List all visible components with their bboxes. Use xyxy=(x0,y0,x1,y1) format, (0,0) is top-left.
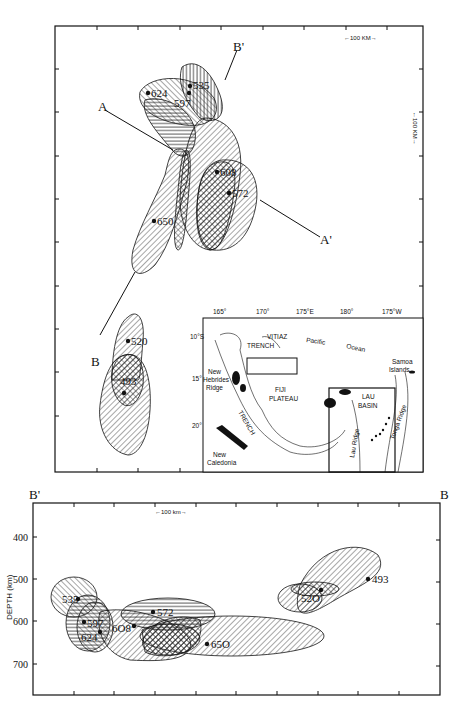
event-dot-608 xyxy=(215,170,219,174)
event-dot-597 xyxy=(187,91,191,95)
section-label-b-prime: B' xyxy=(29,487,40,502)
inset-lon-165: 165° xyxy=(213,308,227,315)
profile-line-b-prime xyxy=(225,50,237,80)
map-scale-horizontal: ←100 KM→ xyxy=(344,35,377,41)
label-ridge: Ridge xyxy=(206,384,223,392)
figure: ←100 KM→ ←100 KM→ A A' B' B 535 624 5 xyxy=(0,0,462,715)
island-hebrides-2 xyxy=(240,384,246,392)
event-label-624: 624 xyxy=(151,87,168,99)
label-islands: Islands xyxy=(389,366,410,373)
event-label-535: 535 xyxy=(193,79,210,91)
section-panel: B' B 400 500 600 700 DEPTH (km) ←100 km→ xyxy=(5,487,449,695)
label-a: A xyxy=(98,99,108,114)
label-samoa: Samoa xyxy=(392,358,413,365)
inset-lon-180: 180° xyxy=(340,308,354,315)
event-dot-624 xyxy=(146,91,150,95)
profile-line-a-prime xyxy=(260,200,320,237)
event-label-572: 572 xyxy=(232,187,249,199)
y-tick-400: 400 xyxy=(13,532,28,543)
label-lau: LAU xyxy=(362,393,375,400)
event-dot-650 xyxy=(152,219,156,223)
section-dot-624 xyxy=(98,630,102,634)
section-label-624: 624 xyxy=(81,631,98,643)
label-new-2: New xyxy=(213,451,226,458)
inset-lat-20: 20° xyxy=(192,422,202,429)
island-hebrides xyxy=(232,371,240,385)
event-label-597: 597 xyxy=(174,97,191,109)
label-basin: BASIN xyxy=(358,402,378,409)
section-label-535: 535 xyxy=(62,593,79,605)
label-b-prime: B' xyxy=(233,39,244,54)
label-vitiaz-trench: TRENCH xyxy=(247,342,274,349)
inset-map: 165° 170° 175°E 180° 175°W 10°S 15° 20° xyxy=(190,308,423,472)
inset-lon-175e: 175°E xyxy=(296,308,314,315)
event-label-493: 493 xyxy=(120,375,137,387)
inset-lon-170: 170° xyxy=(256,308,270,315)
section-label-b: B xyxy=(440,487,449,502)
section-label-493: 493 xyxy=(372,573,389,585)
y-axis-label: DEPTH (km) xyxy=(5,574,14,620)
map-scale-vertical: ←100 KM→ xyxy=(412,112,418,145)
inset-lat-10s: 10°S xyxy=(190,333,205,340)
label-caledonia: Caledonia xyxy=(207,459,237,466)
section-label-597: 597 xyxy=(87,617,104,629)
event-dot-535 xyxy=(188,84,192,88)
section-label-520: 52O xyxy=(301,592,320,604)
label-b: B xyxy=(91,354,100,369)
island-fiji-viti-levu xyxy=(324,398,336,408)
section-dot-493 xyxy=(366,577,370,581)
y-tick-500: 500 xyxy=(13,574,28,585)
section-dot-608 xyxy=(132,624,136,628)
section-scale: ←100 km→ xyxy=(155,509,187,515)
inset-lon-175w: 175°W xyxy=(382,308,402,315)
island-fiji-vanua-levu xyxy=(339,389,351,395)
section-dot-572 xyxy=(151,610,155,614)
inset-lat-15: 15° xyxy=(192,375,202,382)
section-dot-650 xyxy=(205,642,209,646)
event-label-608: 608 xyxy=(220,166,237,178)
event-label-650: 650 xyxy=(157,215,174,227)
section-dot-597 xyxy=(82,620,86,624)
section-label-572: 572 xyxy=(157,606,174,618)
section-label-608: 6O8 xyxy=(112,622,131,634)
label-hebrides: Hebrides xyxy=(203,376,230,383)
y-tick-700: 700 xyxy=(13,659,28,670)
y-tick-600: 600 xyxy=(13,616,28,627)
event-label-520: 520 xyxy=(131,335,148,347)
event-dot-572 xyxy=(227,191,231,195)
section-label-650: 65O xyxy=(211,638,230,650)
label-a-prime: A' xyxy=(320,232,332,247)
label-plateau: PLATEAU xyxy=(269,395,298,402)
event-dot-520 xyxy=(126,339,130,343)
event-dot-493 xyxy=(122,391,126,395)
label-fiji: FIJI xyxy=(275,386,286,393)
label-vitiaz: VITIAZ xyxy=(267,333,287,340)
label-new: New xyxy=(208,368,221,375)
island-samoa xyxy=(409,371,415,374)
